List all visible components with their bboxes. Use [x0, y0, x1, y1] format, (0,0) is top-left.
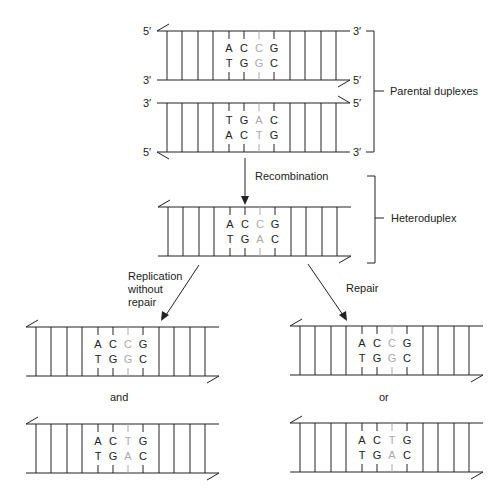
base-letter: T [389, 434, 396, 446]
base-letter: T [95, 353, 102, 365]
label-5prime: 5′ [143, 146, 151, 158]
parental-2-duplex: TAGCATCG [157, 96, 350, 159]
repair-label: Repair [346, 282, 379, 294]
and-label: and [110, 391, 128, 403]
base-letter: C [240, 129, 248, 141]
strand-overhang [158, 200, 170, 207]
strand-overhang [157, 24, 169, 31]
replication-label-line3: repair [128, 296, 156, 308]
label-5prime: 5′ [353, 74, 361, 86]
base-letter: C [241, 218, 249, 230]
replication-label-line1: Replication [128, 270, 182, 282]
base-letter: T [227, 233, 234, 245]
heteroduplex-duplex: ATCGCAGC [158, 200, 351, 263]
recombination-label: Recombination [255, 170, 328, 182]
base-letter: C [270, 57, 278, 69]
base-letter: A [225, 129, 233, 141]
base-letter: G [403, 434, 412, 446]
repair-product-2-duplex: ATCGTAGC [290, 416, 483, 479]
base-letter: A [358, 337, 366, 349]
base-letter: T [256, 129, 263, 141]
base-letter: G [373, 449, 382, 461]
strand-end-labels: 5′ 3′ 3′ 5′ 3′ 5′ 5′ 3′ [143, 25, 361, 158]
replication-label-line2: without [127, 283, 163, 295]
label-5prime: 5′ [353, 97, 361, 109]
base-letter: G [271, 218, 280, 230]
base-letter: A [94, 435, 102, 447]
base-letter: C [139, 353, 147, 365]
base-letter: C [256, 218, 264, 230]
base-letter: A [225, 42, 233, 54]
recombination-arrow [241, 158, 249, 205]
base-letter: C [240, 42, 248, 54]
base-letter: G [403, 337, 412, 349]
base-letter: T [125, 435, 132, 447]
base-letter: A [226, 218, 234, 230]
base-letter: G [255, 57, 264, 69]
base-letter: C [388, 337, 396, 349]
base-letter: G [124, 353, 133, 365]
heteroduplex-bracket [367, 176, 384, 263]
base-letter: C [124, 338, 132, 350]
base-letter: C [403, 352, 411, 364]
base-letter: G [241, 233, 250, 245]
strand-overhang [157, 152, 169, 159]
base-letter: A [388, 449, 396, 461]
base-letter: C [109, 338, 117, 350]
base-letter: A [256, 233, 264, 245]
base-letter: T [359, 449, 366, 461]
base-letter: T [359, 352, 366, 364]
strand-overhang [290, 319, 302, 326]
base-letter: G [240, 57, 249, 69]
base-letter: A [124, 450, 132, 462]
base-letter: A [94, 338, 102, 350]
label-3prime: 3′ [143, 74, 151, 86]
base-letter: G [270, 42, 279, 54]
strand-overhang [471, 472, 483, 479]
base-letter: G [109, 353, 118, 365]
base-letter: C [373, 337, 381, 349]
parental-duplexes-label: Parental duplexes [390, 85, 479, 97]
base-letter: G [139, 338, 148, 350]
label-5prime: 5′ [143, 25, 151, 37]
base-letter: C [271, 233, 279, 245]
base-letter: C [109, 435, 117, 447]
strand-overhang [207, 376, 219, 383]
strand-overhang [207, 473, 219, 480]
label-3prime: 3′ [353, 146, 361, 158]
base-letter: C [403, 449, 411, 461]
strand-overhang [26, 320, 38, 327]
parental-bracket [366, 31, 384, 152]
base-letter: A [255, 114, 263, 126]
label-3prime: 3′ [143, 97, 151, 109]
repair-arrow [308, 264, 347, 321]
strand-overhang [338, 80, 350, 87]
base-letter: G [388, 352, 397, 364]
strand-overhang [471, 375, 483, 382]
base-letter: T [226, 114, 233, 126]
strand-overhang [338, 96, 350, 103]
dna-recombination-diagram: ATCGCGGCTAGCATCGATCGCAGCATCGCGGCATCGTAGC… [0, 0, 500, 494]
heteroduplex-label: Heteroduplex [391, 212, 457, 224]
repair-product-1-duplex: ATCGCGGC [290, 319, 483, 382]
base-letter: G [373, 352, 382, 364]
label-3prime: 3′ [353, 25, 361, 37]
base-letter: C [139, 450, 147, 462]
base-letter: A [358, 434, 366, 446]
base-letter: C [255, 42, 263, 54]
base-letter: C [373, 434, 381, 446]
strand-overhang [26, 417, 38, 424]
or-label: or [379, 391, 389, 403]
base-letter: G [109, 450, 118, 462]
strand-overhang [290, 416, 302, 423]
base-letter: G [270, 129, 279, 141]
base-letter: C [270, 114, 278, 126]
replication-product-2-duplex: ATCGTAGC [26, 417, 219, 480]
base-letter: G [139, 435, 148, 447]
replication-product-1-duplex: ATCGCGGC [26, 320, 219, 383]
parental-1-duplex: ATCGCGGC [157, 24, 350, 87]
strand-overhang [339, 256, 351, 263]
base-letter: T [95, 450, 102, 462]
base-letter: T [226, 57, 233, 69]
base-letter: G [240, 114, 249, 126]
